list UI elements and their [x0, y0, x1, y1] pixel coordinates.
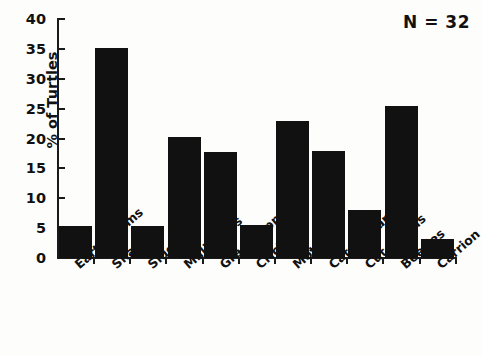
y-tick-label: 10: [0, 191, 46, 206]
x-category-label: Beetles: [399, 262, 407, 272]
y-tick-label: 40: [0, 12, 46, 27]
x-category-label: Millipedes: [182, 262, 190, 272]
x-category-label: Earthworms: [73, 262, 81, 272]
y-tick-label: 5: [0, 221, 46, 236]
y-tick-label: 15: [0, 161, 46, 176]
y-tick-label: 20: [0, 132, 46, 147]
sample-size-annotation: N = 32: [403, 12, 470, 32]
x-axis-category-labels: EarthwormsSnailsSlugsMillipedesGrasshopp…: [0, 258, 482, 356]
x-category-label: Slugs: [146, 262, 154, 272]
bar-chart-figure: % of Turtles 0510152025303540 Earthworms…: [0, 0, 482, 356]
x-category-label: Crickets: [254, 262, 262, 272]
x-category-label: Caterpillars: [327, 262, 335, 272]
x-category-label: Cut worms: [363, 262, 371, 272]
y-tick-label: 30: [0, 72, 46, 87]
x-category-label: Grasshoppers: [218, 262, 226, 272]
y-tick-label: 35: [0, 42, 46, 57]
x-category-label: Moths: [291, 262, 299, 272]
x-category-label: Carrion: [435, 262, 443, 272]
x-category-label: Snails: [110, 262, 118, 272]
y-tick-label: 25: [0, 102, 46, 117]
